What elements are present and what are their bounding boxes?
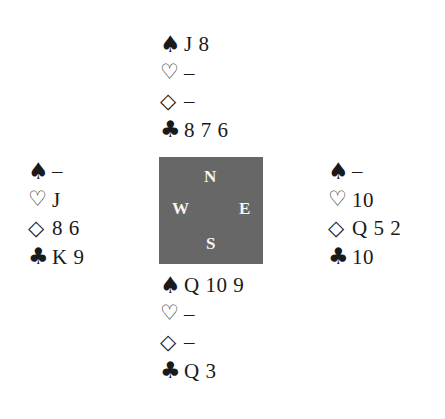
south-spades: Q 10 9 [184, 271, 244, 300]
south-hearts-row: ♡ – [160, 300, 244, 329]
diamond-icon: ◇ [160, 91, 184, 112]
east-clubs: 10 [352, 243, 374, 272]
west-spades: – [52, 157, 63, 186]
compass-south-label: S [206, 234, 215, 254]
north-clubs: 8 7 6 [184, 116, 229, 145]
spade-icon: ♠ [28, 160, 52, 183]
south-clubs: Q 3 [184, 357, 216, 386]
east-diamonds-row: ◇ Q 5 2 [328, 214, 401, 243]
east-hearts: 10 [352, 186, 374, 215]
club-icon: ♣ [328, 245, 352, 268]
west-diamonds: 8 6 [52, 214, 80, 243]
east-hand: ♠ – ♡ 10 ◇ Q 5 2 ♣ 10 [328, 157, 401, 271]
east-hearts-row: ♡ 10 [328, 186, 401, 215]
south-hand: ♠ Q 10 9 ♡ – ◇ – ♣ Q 3 [160, 271, 244, 385]
east-spades: – [352, 157, 363, 186]
south-diamonds: – [184, 328, 195, 357]
heart-icon: ♡ [328, 189, 352, 210]
club-icon: ♣ [160, 118, 184, 141]
north-diamonds: – [184, 87, 195, 116]
spade-icon: ♠ [160, 33, 184, 56]
compass-east-label: E [239, 199, 250, 219]
diamond-icon: ◇ [160, 332, 184, 353]
west-spades-row: ♠ – [28, 157, 84, 186]
diamond-icon: ◇ [328, 218, 352, 239]
heart-icon: ♡ [28, 189, 52, 210]
west-diamonds-row: ◇ 8 6 [28, 214, 84, 243]
spade-icon: ♠ [328, 160, 352, 183]
compass-west-label: W [172, 199, 189, 219]
north-hearts: – [184, 59, 195, 88]
south-spades-row: ♠ Q 10 9 [160, 271, 244, 300]
diamond-icon: ◇ [28, 218, 52, 239]
east-diamonds: Q 5 2 [352, 214, 401, 243]
south-hearts: – [184, 300, 195, 329]
east-spades-row: ♠ – [328, 157, 401, 186]
club-icon: ♣ [28, 245, 52, 268]
west-clubs-row: ♣ K 9 [28, 243, 84, 272]
heart-icon: ♡ [160, 303, 184, 324]
heart-icon: ♡ [160, 62, 184, 83]
west-clubs: K 9 [52, 243, 84, 272]
west-hearts: J [52, 186, 61, 215]
compass-north-label: N [204, 167, 216, 187]
compass-box: N W E S [159, 157, 263, 264]
north-hearts-row: ♡ – [160, 59, 229, 88]
south-clubs-row: ♣ Q 3 [160, 357, 244, 386]
north-hand: ♠ J 8 ♡ – ◇ – ♣ 8 7 6 [160, 30, 229, 144]
club-icon: ♣ [160, 359, 184, 382]
north-diamonds-row: ◇ – [160, 87, 229, 116]
south-diamonds-row: ◇ – [160, 328, 244, 357]
spade-icon: ♠ [160, 274, 184, 297]
west-hand: ♠ – ♡ J ◇ 8 6 ♣ K 9 [28, 157, 84, 271]
east-clubs-row: ♣ 10 [328, 243, 401, 272]
west-hearts-row: ♡ J [28, 186, 84, 215]
north-clubs-row: ♣ 8 7 6 [160, 116, 229, 145]
north-spades-row: ♠ J 8 [160, 30, 229, 59]
north-spades: J 8 [184, 30, 209, 59]
